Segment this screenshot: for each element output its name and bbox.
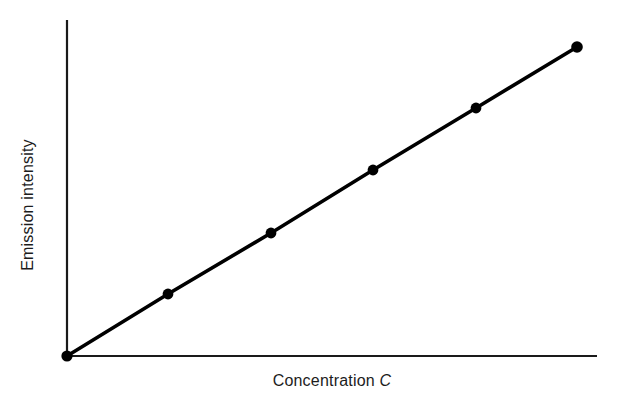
- data-point-marker: [471, 103, 482, 114]
- data-point-marker: [163, 289, 174, 300]
- x-axis-label: Concentration C: [67, 373, 597, 389]
- chart-figure: Emission intensity Concentration C: [0, 0, 622, 409]
- y-axis-label-container: Emission intensity: [0, 0, 60, 409]
- y-axis-label: Emission intensity: [20, 105, 36, 305]
- data-series-line: [67, 47, 577, 356]
- data-point-marker: [61, 350, 72, 361]
- plot-area: [0, 0, 622, 409]
- data-point-marker: [571, 41, 583, 53]
- x-axis-label-symbol: C: [380, 372, 392, 389]
- data-point-marker: [368, 165, 379, 176]
- data-point-marker: [266, 228, 277, 239]
- x-axis-label-text: Concentration: [273, 372, 375, 389]
